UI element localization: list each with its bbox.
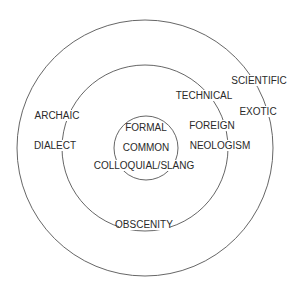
- label-archaic: ARCHAIC: [34, 110, 79, 121]
- label-exotic: EXOTIC: [239, 106, 276, 117]
- label-neologism: NEOLOGISM: [190, 140, 251, 151]
- label-formal: FORMAL: [125, 122, 167, 133]
- label-foreign: FOREIGN: [189, 120, 235, 131]
- label-scientific: SCIENTIFIC: [231, 75, 287, 86]
- label-obscenity: OBSCENITY: [115, 219, 173, 230]
- label-dialect: DIALECT: [34, 140, 76, 151]
- vocabulary-concentric-diagram: FORMAL COMMON COLLOQUIAL/SLANG ARCHAIC D…: [0, 0, 301, 291]
- label-colloquial-slang: COLLOQUIAL/SLANG: [94, 160, 195, 171]
- label-technical: TECHNICAL: [176, 90, 233, 101]
- label-common: COMMON: [123, 142, 170, 153]
